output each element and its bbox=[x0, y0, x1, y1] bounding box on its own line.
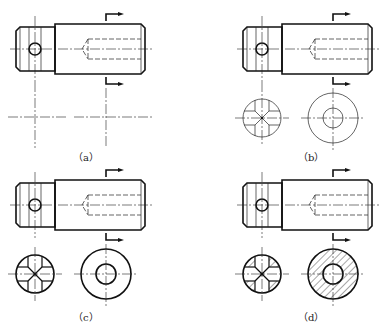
panel-label-b: （b） bbox=[298, 149, 324, 164]
panel-c bbox=[8, 168, 152, 306]
panel-a bbox=[8, 12, 153, 148]
shaft-main-view-b bbox=[237, 12, 379, 86]
section-left-c bbox=[8, 247, 62, 301]
section-left-b bbox=[235, 82, 289, 145]
panel-d bbox=[235, 168, 379, 306]
panel-label-d: （d） bbox=[298, 309, 324, 324]
section-right-d bbox=[301, 244, 365, 306]
section-right-b bbox=[301, 88, 365, 150]
panel-b bbox=[235, 12, 379, 150]
shaft-main-view-a bbox=[10, 12, 152, 86]
drawing-figure: （a） （b） （c） （d） bbox=[0, 0, 384, 328]
section-left-d bbox=[235, 247, 289, 301]
shaft-main-view-c bbox=[10, 168, 152, 242]
panel-label-a: （a） bbox=[73, 149, 99, 164]
section-right-c bbox=[74, 244, 138, 306]
shaft-main-view-d bbox=[237, 168, 379, 242]
panel-label-c: （c） bbox=[73, 309, 99, 324]
